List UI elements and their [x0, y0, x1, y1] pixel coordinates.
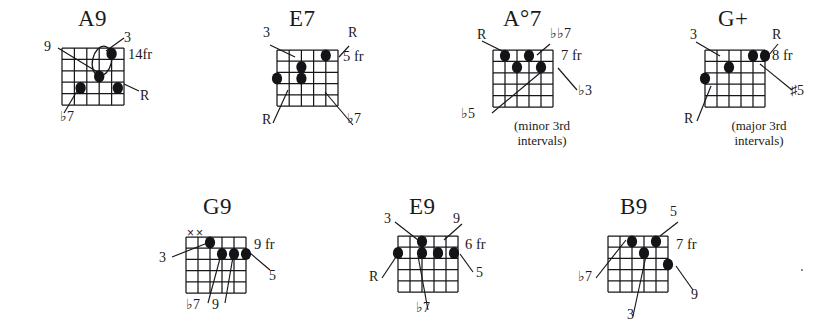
- finger-dots-b9: [608, 236, 672, 294]
- label-e9-root: R: [369, 270, 378, 285]
- label-gaug-three: 3: [690, 28, 697, 43]
- fret-marker-a9: 14fr: [128, 46, 152, 63]
- fret-marker-e9: 6 fr: [465, 236, 486, 253]
- label-a9-root: R: [140, 89, 149, 104]
- page-speck: [801, 269, 803, 271]
- label-b9-three: 3: [627, 308, 634, 323]
- label-adim7-dblflat7: ♭♭7: [550, 27, 571, 42]
- label-e9-five: 5: [476, 266, 483, 281]
- fret-marker-gaug: 8 fr: [772, 47, 793, 64]
- label-e7-three: 3: [263, 26, 270, 41]
- label-gaug-root-top: R: [772, 28, 781, 43]
- label-g9-nine: 9: [212, 298, 219, 313]
- interval-note-gaug: (major 3rd intervals): [700, 118, 818, 149]
- label-adim7-flat5: ♭5: [461, 107, 475, 122]
- finger-dots-e9: [398, 236, 462, 294]
- label-e9-three: 3: [384, 212, 391, 227]
- interval-note-adim7: (minor 3rd intervals): [487, 118, 597, 149]
- finger-dots-a9: [62, 48, 126, 106]
- label-adim7-flat3: ♭3: [578, 84, 592, 99]
- label-g9-five: 5: [269, 269, 276, 284]
- label-e9-nine: 9: [453, 212, 460, 227]
- label-e7-flat7: ♭7: [347, 112, 361, 127]
- chord-title-g9: G9: [203, 194, 232, 220]
- fret-marker-adim7: 7 fr: [561, 47, 582, 64]
- label-e7-root-bottom: R: [262, 113, 271, 128]
- label-a9-flat7: ♭7: [60, 110, 74, 125]
- label-a9-three: 3: [124, 31, 131, 46]
- label-b9-flat7: ♭7: [578, 270, 592, 285]
- label-a9-nine: 9: [44, 40, 51, 55]
- finger-dots-adim7: [493, 50, 557, 110]
- finger-dots-gaug: [705, 50, 769, 110]
- label-gaug-sharp5: ♯5: [790, 84, 804, 99]
- fret-marker-e7: 5 fr: [343, 48, 364, 65]
- label-b9-nine: 9: [691, 288, 698, 303]
- label-e7-root-top: R: [348, 26, 357, 41]
- chord-title-e7: E7: [289, 6, 316, 32]
- finger-dots-g9: [186, 237, 250, 295]
- fret-marker-b9: 7 fr: [676, 236, 697, 253]
- label-b9-five: 5: [670, 205, 677, 220]
- finger-dots-e7: [277, 50, 341, 108]
- fret-marker-g9: 9 fr: [254, 236, 275, 253]
- label-g9-three: 3: [159, 251, 166, 266]
- label-e9-flat7: ♭7: [416, 301, 430, 316]
- label-adim7-root: R: [477, 28, 486, 43]
- label-gaug-root-bottom: R: [684, 112, 693, 127]
- label-g9-flat7: ♭7: [186, 298, 200, 313]
